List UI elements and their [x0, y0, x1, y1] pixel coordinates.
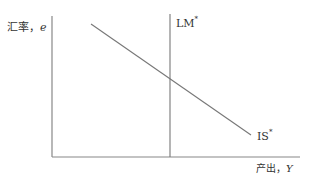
y-axis-label-text: 汇率，	[7, 21, 40, 34]
x-axis-label-text: 产出，	[256, 163, 286, 174]
is-label-text: IS	[257, 130, 269, 143]
lm-label-text: LM	[176, 17, 195, 30]
y-axis-variable: e	[40, 21, 47, 34]
lm-star-label: LM*	[176, 18, 198, 29]
is-star-curve	[91, 24, 251, 135]
lm-star-superscript: *	[195, 15, 199, 23]
is-star-superscript: *	[269, 128, 273, 136]
is-star-label: IS*	[257, 131, 272, 142]
x-axis-variable: Y	[286, 163, 293, 174]
y-axis-label: 汇率，e	[7, 22, 47, 33]
x-axis-label: 产出，Y	[256, 164, 293, 174]
